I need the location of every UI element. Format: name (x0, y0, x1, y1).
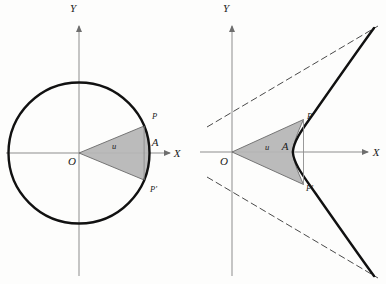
right-asymptote-upper (207, 26, 378, 127)
left-origin-label: O (68, 155, 76, 167)
left-point-p-prime-label: P' (149, 184, 157, 194)
left-x-axis-label: X (173, 147, 182, 159)
left-vertex-label: A (151, 136, 159, 148)
panel-circular-sector: Y X O A P P' u (6, 2, 182, 276)
right-origin-label: O (220, 155, 228, 167)
right-area-label: u (265, 142, 269, 152)
left-point-p-label: P (151, 111, 157, 121)
right-x-axis-label: X (372, 146, 381, 158)
right-point-p-prime-label: P' (305, 183, 313, 193)
figure-canvas: Y X O A P P' u Y X O (0, 0, 386, 284)
right-asymptote-lower (207, 177, 378, 278)
left-y-axis-label: Y (70, 2, 78, 14)
right-y-axis-label: Y (223, 2, 231, 14)
right-point-p-label: P (306, 111, 312, 121)
left-sector-area (79, 126, 149, 180)
figure-svg: Y X O A P P' u Y X O (0, 0, 386, 284)
panel-hyperbolic-sector: Y X O A u P P' (200, 2, 381, 278)
left-area-label: u (112, 141, 116, 151)
right-vertex-label: A (281, 140, 289, 152)
